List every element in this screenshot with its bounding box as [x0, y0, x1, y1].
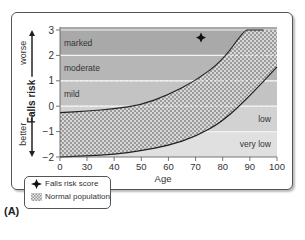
panel-label: (A) — [4, 205, 19, 217]
legend-label-score: Falls risk score — [45, 179, 98, 188]
x-tick-label: 30 — [82, 161, 93, 172]
x-tick-label: 60 — [163, 161, 174, 172]
band-label: marked — [64, 38, 93, 48]
arrow-up-icon — [29, 30, 35, 36]
legend-item-score: Falls risk score — [25, 177, 110, 190]
y-tick-label: −1 — [43, 126, 55, 137]
x-tick-label: 90 — [245, 161, 256, 172]
legend-label-normal: Normal population — [45, 192, 110, 201]
x-tick-label: 70 — [190, 161, 201, 172]
legend: Falls risk score Normal population — [24, 176, 111, 209]
x-tick-label: 50 — [136, 161, 147, 172]
y-axis-label: Falls riskworsebetter — [18, 30, 37, 157]
diamond-star-icon — [31, 179, 42, 189]
arrow-down-icon — [29, 151, 35, 157]
y-tick-label: 0 — [48, 101, 54, 112]
band-label: moderate — [64, 63, 100, 73]
x-tick-label: 40 — [109, 161, 120, 172]
x-tick-label: 0 — [57, 161, 62, 172]
crosshatch-icon — [31, 192, 42, 202]
y-tick-label: 2 — [48, 50, 54, 61]
x-axis-label: Age — [155, 173, 172, 184]
band-label: mild — [64, 89, 80, 99]
better-label: better — [18, 123, 28, 146]
band-label: low — [258, 114, 272, 124]
y-tick-label: −2 — [43, 152, 55, 163]
x-tick-label: 80 — [217, 161, 228, 172]
y-tick-label: 1 — [48, 75, 54, 86]
band-label: very low — [240, 139, 272, 149]
legend-item-normal: Normal population — [25, 190, 110, 203]
y-tick-label: 3 — [48, 25, 54, 36]
x-tick-label: 100 — [269, 161, 285, 172]
worse-label: worse — [18, 41, 28, 66]
